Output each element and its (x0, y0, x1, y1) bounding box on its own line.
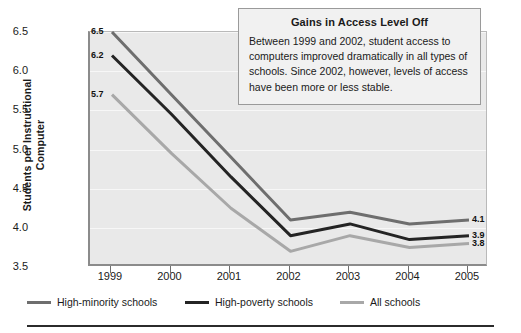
y-tick-label: 4.5 (0, 183, 28, 194)
x-tick-mark (229, 266, 230, 273)
y-tick-label: 4.0 (0, 222, 28, 233)
legend-item[interactable]: High-minority schools (27, 297, 157, 308)
legend-label: High-minority schools (57, 297, 157, 308)
x-tick-mark (348, 266, 349, 273)
x-tick-mark (289, 266, 290, 273)
y-tick-label: 6.5 (0, 26, 28, 37)
x-tick-mark (467, 266, 468, 273)
x-tick-mark (110, 266, 111, 273)
y-tick-label: 5.0 (0, 144, 28, 155)
chart-legend: High-minority schoolsHigh-poverty school… (0, 295, 521, 315)
start-value-label: 6.2 (91, 51, 104, 60)
legend-item[interactable]: All schools (340, 297, 420, 308)
legend-label: All schools (370, 297, 420, 308)
y-tick-label: 6.0 (0, 65, 28, 76)
legend-swatch (340, 301, 364, 304)
callout-title: Gains in Access Level Off (249, 16, 470, 28)
end-value-label: 3.8 (472, 239, 485, 248)
legend-swatch (27, 301, 51, 304)
legend-item[interactable]: High-poverty schools (185, 297, 313, 308)
callout-body: Between 1999 and 2002, student access to… (249, 34, 470, 95)
x-tick-mark (408, 266, 409, 273)
y-tick-label: 5.5 (0, 104, 28, 115)
end-value-label: 4.1 (472, 215, 485, 224)
chart-figure: Students per Instructional Computer 6.56… (0, 0, 521, 333)
series-line-2 (112, 95, 469, 252)
legend-label: High-poverty schools (215, 297, 313, 308)
callout-box: Gains in Access Level Off Between 1999 a… (238, 8, 481, 105)
legend-swatch (185, 301, 209, 304)
bottom-rule (27, 325, 494, 327)
start-value-label: 6.5 (91, 27, 104, 36)
y-tick-label: 3.5 (0, 261, 28, 272)
x-tick-mark (170, 266, 171, 273)
y-axis-title-line-2: Computer (34, 79, 47, 212)
start-value-label: 5.7 (91, 90, 104, 99)
